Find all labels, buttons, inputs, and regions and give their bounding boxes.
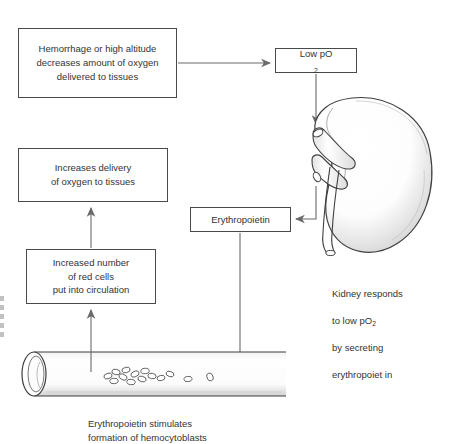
box-low-po2: Low pO2: [275, 48, 357, 73]
low-po2-text: Low pO: [300, 47, 333, 61]
box-increased-red-cells: Increased number of red cells put into c…: [26, 249, 156, 304]
kidney-illustration: [312, 98, 432, 256]
box-increases-delivery-label: Increases delivery of oxygen to tissues: [51, 161, 135, 189]
caption-kidney-po2-subscript: 2: [372, 320, 376, 327]
box-erythropoietin-label: Erythropoietin: [211, 213, 270, 227]
box-low-po2-label: Low pO2: [300, 47, 333, 75]
box-erythropoietin: Erythropoietin: [190, 207, 291, 232]
caption-kidney: Kidney responds to low pO2 by secreting …: [332, 274, 447, 395]
box-stimulus: Hemorrhage or high altitude decreases am…: [18, 28, 177, 98]
arrow-kidney-to-erythropoietin: [296, 186, 316, 219]
box-increases-delivery: Increases delivery of oxygen to tissues: [18, 148, 168, 202]
caption-kidney-line1: Kidney responds: [332, 287, 447, 300]
low-po2-subscript: 2: [314, 67, 318, 74]
caption-kidney-po2-text: to low pO: [332, 315, 372, 326]
caption-vessel: Erythropoietin stimulates formation of h…: [88, 404, 318, 444]
blood-vessel-illustration: [22, 352, 286, 396]
scan-edge-artifacts: [0, 296, 5, 340]
box-increased-red-cells-label: Increased number of red cells put into c…: [53, 256, 130, 297]
caption-kidney-line2: to low pO2: [332, 314, 447, 327]
box-stimulus-label: Hemorrhage or high altitude decreases am…: [37, 42, 159, 83]
caption-vessel-label: Erythropoietin stimulates formation of h…: [88, 418, 207, 442]
caption-kidney-line3: by secreting: [332, 341, 447, 354]
caption-kidney-line4: erythropoiet in: [332, 368, 447, 381]
